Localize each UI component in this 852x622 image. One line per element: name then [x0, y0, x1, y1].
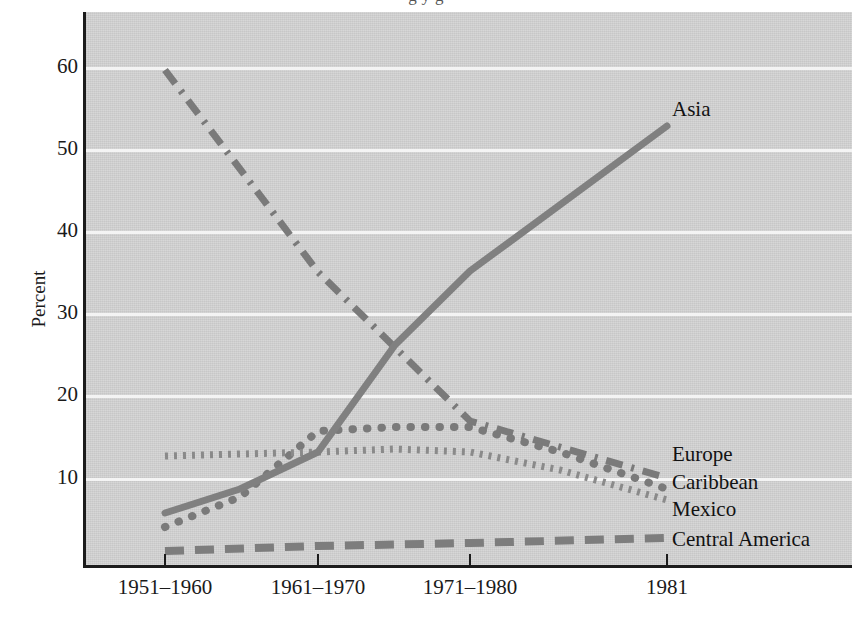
gridline-40	[85, 231, 852, 234]
y-tick-20: 20	[33, 384, 78, 405]
y-tick-50: 50	[33, 138, 78, 159]
x-tick-label-3: 1971–1980	[380, 575, 560, 600]
x-tick-mark-1	[164, 554, 166, 568]
y-axis-line	[83, 12, 86, 568]
y-axis-tick-labels: 60 50 40 30 20 10 Percent	[20, 0, 78, 622]
gridline-30	[85, 313, 852, 316]
x-tick-mark-4	[666, 554, 668, 568]
y-axis-title: Percent	[28, 244, 50, 354]
y-tick-60: 60	[33, 56, 78, 77]
series-label-caribbean: Caribbean	[672, 470, 758, 495]
series-label-central-america: Central America	[672, 527, 810, 552]
gridline-50	[85, 149, 852, 152]
series-label-mexico: Mexico	[672, 497, 736, 522]
x-tick-mark-2	[317, 554, 319, 568]
gridline-20	[85, 395, 852, 398]
x-tick-label-4: 1981	[577, 575, 757, 600]
x-axis-line	[83, 565, 852, 568]
x-tick-mark-3	[469, 554, 471, 568]
chart-figure: g y g 60 50 40 30 20 10 Percent 1951–196…	[0, 0, 852, 622]
title-remnant: g y g	[0, 0, 852, 6]
y-tick-10: 10	[33, 467, 78, 488]
series-label-asia: Asia	[672, 97, 711, 122]
gridline-60	[85, 67, 852, 70]
series-label-europe: Europe	[672, 442, 733, 467]
y-tick-40: 40	[33, 220, 78, 241]
